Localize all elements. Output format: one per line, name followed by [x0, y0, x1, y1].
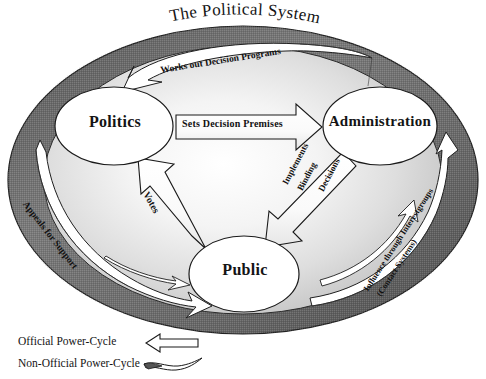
arrow-label-sets-decision-premises: Sets Decision Premises [182, 119, 283, 129]
curved-swoosh-arrow-icon [142, 355, 208, 375]
legend-item-non-official: Non-Official Power-Cycle [18, 355, 248, 377]
legend: Official Power-Cycle Non-Official Power-… [18, 333, 248, 377]
node-label-public: Public [190, 262, 300, 278]
legend-label-official: Official Power-Cycle [18, 335, 116, 347]
node-label-administration: Administration [310, 114, 450, 129]
node-label-politics: Politics [60, 114, 170, 130]
legend-item-official: Official Power-Cycle [18, 333, 248, 355]
legend-label-non-official: Non-Official Power-Cycle [18, 357, 140, 369]
hollow-block-arrow-left-icon [142, 333, 208, 353]
diagram-canvas: The Political System Politics Administra… [0, 0, 486, 379]
